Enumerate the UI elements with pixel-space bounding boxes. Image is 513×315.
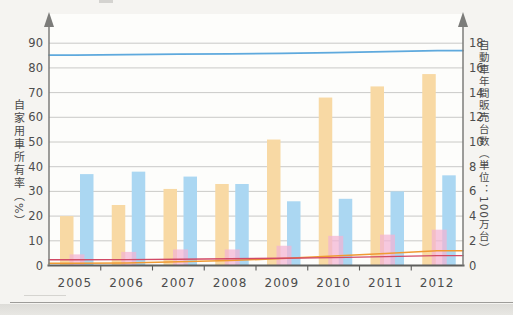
page-divider-line (10, 302, 513, 303)
left-axis-tick-label: 30 (28, 184, 43, 198)
left-axis-tick-label: 90 (28, 36, 43, 50)
year-label: 2009 (265, 276, 300, 290)
right-axis-tick-label: 8 (469, 160, 476, 174)
year-label: 2010 (316, 276, 351, 290)
year-label: 2008 (213, 276, 248, 290)
year-label: 2006 (109, 276, 144, 290)
scanned-chart-page: 0102030405060708090024681012141618200520… (0, 0, 513, 315)
bar-pink-bars-2012 (432, 230, 447, 266)
bar-blue-bars-2005 (80, 174, 94, 265)
chart-canvas: 0102030405060708090024681012141618200520… (0, 0, 513, 315)
bar-pink-bars-2008 (225, 249, 240, 265)
right-axis-tick-label: 6 (469, 184, 476, 198)
page-edge-shadow (0, 304, 513, 315)
left-axis-tick-label: 60 (28, 110, 43, 124)
left-axis-tick-label: 20 (28, 209, 43, 223)
year-label: 2005 (58, 276, 93, 290)
right-axis-tick-label: 0 (469, 259, 476, 273)
right-axis-tick-label: 2 (469, 234, 476, 248)
bar-pink-bars-2007 (173, 249, 188, 265)
bar-pink-bars-2010 (328, 236, 343, 266)
left-axis-tick-label: 70 (28, 86, 43, 100)
year-label: 2011 (368, 276, 403, 290)
bar-blue-bars-2006 (132, 172, 146, 266)
bar-pink-bars-2009 (277, 246, 292, 266)
left-axis-title: 自家用車所有率（%） (13, 99, 24, 228)
left-axis-tick-label: 0 (36, 259, 43, 273)
year-label: 2007 (161, 276, 196, 290)
left-axis-tick-label: 50 (28, 135, 43, 149)
right-axis-title: 自動車年間販売台数（単位：100万台） (478, 40, 489, 255)
bar-pink-bars-2011 (380, 235, 395, 266)
left-axis-tick-label: 10 (28, 234, 43, 248)
right-axis-tick-label: 4 (469, 209, 476, 223)
left-axis-tick-label: 40 (28, 160, 43, 174)
scan-artifact-dash (24, 295, 66, 296)
left-axis-tick-label: 80 (28, 61, 43, 75)
year-label: 2012 (420, 276, 455, 290)
